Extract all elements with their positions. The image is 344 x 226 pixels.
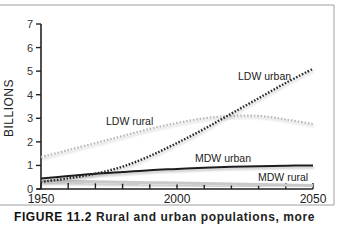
label-mdw-urban: MDW urban — [195, 152, 251, 164]
y-tick-label: 4 — [27, 89, 33, 101]
figure-caption: FIGURE 11.2 Rural and urban populations,… — [14, 210, 315, 224]
label-ldw-urban: LDW urban — [238, 70, 291, 82]
caption-text: Rural and urban populations, more — [96, 210, 315, 224]
x-tick-label: 2000 — [164, 192, 191, 206]
series-line-ldw-rural — [41, 116, 313, 158]
series-lines — [41, 69, 313, 186]
label-mdw-rural: MDW rural — [258, 171, 308, 183]
x-tick-label: 2050 — [300, 192, 327, 206]
population-chart: BILLIONS 01234567195020002050 LDW urban … — [0, 0, 344, 226]
y-tick-label: 2 — [27, 136, 33, 148]
x-tick-label: 1950 — [28, 192, 55, 206]
y-tick-label: 5 — [27, 65, 33, 77]
figure-number: FIGURE 11.2 — [14, 210, 92, 224]
label-ldw-rural: LDW rural — [106, 115, 153, 127]
y-tick-label: 6 — [27, 42, 33, 54]
y-axis-label: BILLIONS — [2, 79, 16, 137]
y-tick-label: 1 — [27, 159, 33, 171]
y-tick-label: 7 — [27, 18, 33, 30]
y-tick-label: 3 — [27, 112, 33, 124]
